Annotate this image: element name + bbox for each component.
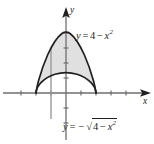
parabola-equals: = xyxy=(81,30,90,41)
semicircle-minus: − xyxy=(99,121,108,132)
radicand: 4−x2 xyxy=(92,118,117,133)
parabola-exponent: 2 xyxy=(109,28,113,36)
semicircle-equals: = xyxy=(68,121,77,132)
x-axis-label: x xyxy=(143,96,147,106)
y-axis-label: y xyxy=(70,5,74,15)
parabola-equation-label: y=4−x2 xyxy=(76,28,113,41)
parabola-minus: − xyxy=(95,30,104,41)
semicircle-leading-minus: − xyxy=(77,121,86,132)
math-figure: y x y=4−x2 y=−√4−x2 xyxy=(0,0,154,144)
semicircle-equation-label: y=−√4−x2 xyxy=(63,118,117,133)
semicircle-constant: 4 xyxy=(93,121,98,132)
semicircle-exponent: 2 xyxy=(113,119,117,127)
